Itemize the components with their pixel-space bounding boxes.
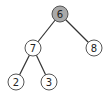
node-label: 8 (91, 43, 97, 54)
binary-tree-diagram: 67823 (0, 0, 109, 101)
tree-node-6: 6 (52, 6, 68, 22)
tree-node-2: 2 (8, 74, 24, 90)
tree-node-7: 7 (25, 40, 41, 56)
node-label: 3 (46, 77, 52, 88)
node-label: 7 (30, 43, 36, 54)
tree-node-3: 3 (41, 74, 57, 90)
tree-node-8: 8 (86, 40, 102, 56)
tree-nodes: 67823 (8, 6, 102, 90)
node-label: 2 (13, 77, 19, 88)
node-label: 6 (57, 9, 63, 20)
